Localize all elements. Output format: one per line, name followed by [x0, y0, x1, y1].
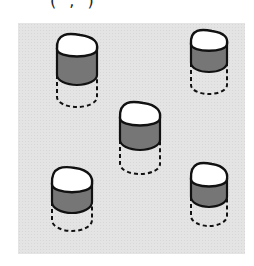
cylinder-bottom-left [50, 167, 94, 234]
cylinder-top-right [189, 30, 229, 97]
cylinder-center [118, 102, 162, 177]
figure-caption: ( , ) [50, 0, 98, 10]
cylinder-bottom-right [189, 163, 229, 229]
cylinder-top-left [55, 34, 99, 110]
